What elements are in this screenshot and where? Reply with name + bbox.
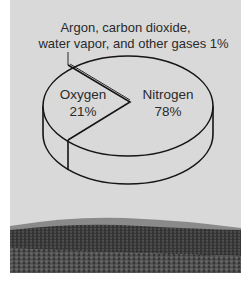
oxygen-name: Oxygen (48, 86, 118, 103)
oxygen-value: 21% (48, 103, 118, 120)
nitrogen-value: 78% (133, 103, 203, 120)
nitrogen-label: Nitrogen 78% (133, 86, 203, 120)
nitrogen-name: Nitrogen (133, 86, 203, 103)
oxygen-label: Oxygen 21% (48, 86, 118, 120)
landscape-photo (10, 216, 241, 273)
